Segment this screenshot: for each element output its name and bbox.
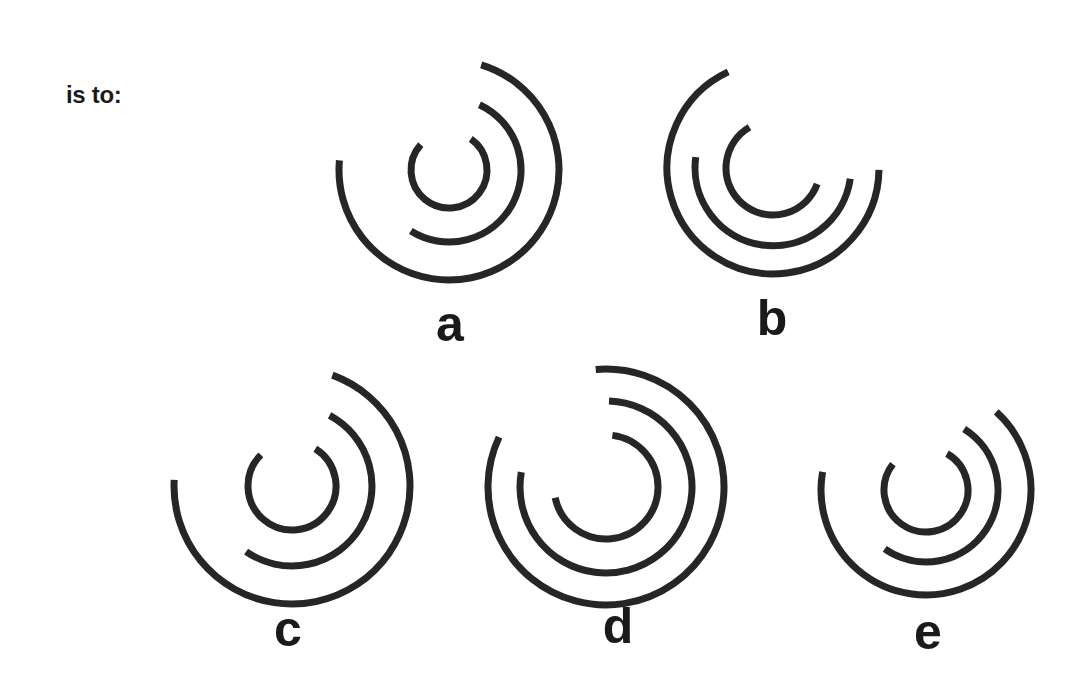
arc-inner xyxy=(248,449,336,530)
option-label-a[interactable]: a xyxy=(420,299,480,349)
option-label-b[interactable]: b xyxy=(742,293,802,343)
arc-middle xyxy=(520,401,692,573)
arc-middle xyxy=(246,415,372,566)
arc-middle xyxy=(695,157,850,246)
option-figure-b[interactable] xyxy=(660,55,886,281)
arc-inner xyxy=(411,139,487,208)
option-figure-e[interactable] xyxy=(814,378,1038,602)
arc-middle xyxy=(885,429,998,562)
option-label-e[interactable]: e xyxy=(898,607,958,657)
question-canvas: is to: abcde xyxy=(0,0,1083,692)
arc-outer xyxy=(339,65,559,280)
arc-inner xyxy=(726,127,817,215)
arc-inner xyxy=(555,435,658,539)
option-label-d[interactable]: d xyxy=(588,601,648,651)
option-figure-a[interactable] xyxy=(332,53,566,287)
option-figure-c[interactable] xyxy=(167,361,417,611)
option-figure-d[interactable] xyxy=(481,362,731,612)
option-label-c[interactable]: c xyxy=(258,604,318,654)
arc-inner xyxy=(884,454,968,532)
arc-middle xyxy=(411,105,521,242)
prompt-label: is to: xyxy=(66,83,122,107)
